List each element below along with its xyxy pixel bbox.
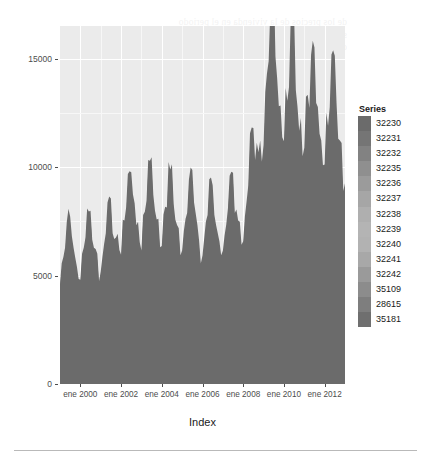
legend-item[interactable]: 32238 [358,207,428,222]
legend-title: Series [358,104,428,114]
legend-swatch [358,176,371,191]
legend-swatch [358,252,371,267]
legend-swatch [358,207,371,222]
legend-item[interactable]: 32241 [358,252,428,267]
legend-item-label: 32238 [371,207,401,222]
legend-swatch [358,312,371,327]
legend-item-label: 32232 [371,146,401,161]
plot-panel [60,26,345,384]
legend-item-label: 32236 [371,176,401,191]
legend-item[interactable]: 32236 [358,176,428,191]
figure-container: de los precios de la vivienda en el peri… [0,0,431,460]
y-axis-tick [55,59,58,60]
legend-item[interactable]: 32231 [358,131,428,146]
x-axis-tick [325,384,326,387]
legend-item[interactable]: 32242 [358,267,428,282]
x-axis-tick [162,384,163,387]
y-axis-tick-label: 0 [6,380,52,389]
legend-item-label: 28615 [371,297,401,312]
legend-item-label: 32235 [371,161,401,176]
legend-item-label: 35181 [371,312,401,327]
y-axis-tick [55,276,58,277]
legend-item-label: 32241 [371,252,401,267]
legend-swatch [358,161,371,176]
legend-item[interactable]: 35109 [358,282,428,297]
stacked-area-plot [60,26,345,384]
x-axis-tick [121,384,122,387]
legend-swatch [358,282,371,297]
legend-item[interactable]: 32237 [358,191,428,206]
x-axis-tick [243,384,244,387]
legend-items: 3223032231322323223532236322373223832239… [358,116,428,327]
legend-item-label: 32231 [371,131,401,146]
legend-swatch [358,191,371,206]
legend-swatch [358,237,371,252]
legend-item-label: 32239 [371,222,401,237]
x-axis-title: Index [0,416,405,428]
legend-swatch [358,222,371,237]
legend-item[interactable]: 32232 [358,146,428,161]
x-axis-tick-label: ene 2012 [290,390,360,399]
legend: Series 322303223132232322353223632237322… [358,104,428,327]
y-axis-tick [55,167,58,168]
legend-swatch [358,297,371,312]
legend-item[interactable]: 35181 [358,312,428,327]
y-axis-tick [55,384,58,385]
legend-item[interactable]: 28615 [358,297,428,312]
legend-swatch [358,267,371,282]
x-axis-tick [203,384,204,387]
legend-item-label: 32237 [371,191,401,206]
y-axis-tick-label: 15000 [6,55,52,64]
x-axis-tick [284,384,285,387]
legend-item[interactable]: 32240 [358,237,428,252]
legend-item-label: 32230 [371,116,401,131]
legend-swatch [358,131,371,146]
legend-item[interactable]: 32235 [358,161,428,176]
legend-swatch [358,146,371,161]
footer-divider [14,450,417,451]
x-axis-tick [80,384,81,387]
legend-item-label: 32242 [371,267,401,282]
y-axis-tick-label: 10000 [6,163,52,172]
y-axis-tick-label: 5000 [6,272,52,281]
legend-swatch [358,116,371,131]
legend-item[interactable]: 32230 [358,116,428,131]
legend-item-label: 35109 [371,282,401,297]
area-band-32230 [60,26,345,384]
legend-item[interactable]: 32239 [358,222,428,237]
legend-item-label: 32240 [371,237,401,252]
